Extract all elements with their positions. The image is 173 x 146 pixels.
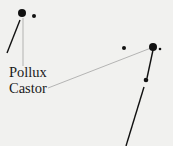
star-pollux: [18, 9, 26, 17]
label-pollux: Pollux: [9, 64, 48, 80]
label-castor: Castor: [9, 80, 47, 96]
constellation-line: [7, 20, 20, 53]
star: [159, 48, 162, 51]
star: [144, 78, 149, 83]
star: [122, 46, 126, 50]
star: [32, 14, 36, 18]
castor-leader-line: [48, 48, 151, 88]
constellation-line: [126, 87, 144, 146]
star-chart: Pollux Castor: [0, 0, 173, 146]
star-castor: [149, 43, 157, 51]
constellation-line: [147, 50, 153, 78]
